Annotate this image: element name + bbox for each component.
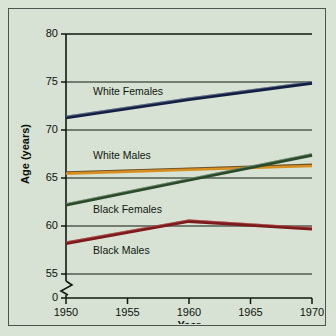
series-line-white-males [66, 166, 312, 174]
ytick-label: 65 [46, 171, 58, 183]
y-axis-title: Age (years) [19, 124, 31, 184]
plot-area: 556065707580019501955196019651970YearAge… [9, 9, 325, 325]
series-line-black-males [66, 221, 312, 243]
x-axis-title: Year [177, 319, 201, 324]
chart-figure: 556065707580019501955196019651970YearAge… [8, 8, 326, 326]
xtick-label: 1970 [300, 306, 324, 318]
ytick-label: 55 [46, 267, 58, 279]
xtick-label: 1950 [54, 306, 78, 318]
ytick-label-zero: 0 [52, 291, 58, 303]
xtick-label: 1955 [115, 306, 139, 318]
series-label-black-males: Black Males [93, 244, 150, 256]
y-axis-break-zigzag [61, 281, 72, 295]
ytick-label: 70 [46, 123, 58, 135]
series-label-white-females: White Females [93, 85, 163, 97]
xtick-label: 1965 [238, 306, 262, 318]
ytick-label: 80 [46, 27, 58, 39]
series-label-black-females: Black Females [93, 203, 162, 215]
ytick-label: 60 [46, 219, 58, 231]
ytick-label: 75 [46, 75, 58, 87]
series-label-white-males: White Males [93, 149, 151, 161]
xtick-label: 1960 [177, 306, 201, 318]
series-line-highlight [66, 220, 312, 242]
line-chart: 556065707580019501955196019651970YearAge… [9, 9, 324, 324]
series-line-black-females [66, 155, 312, 205]
